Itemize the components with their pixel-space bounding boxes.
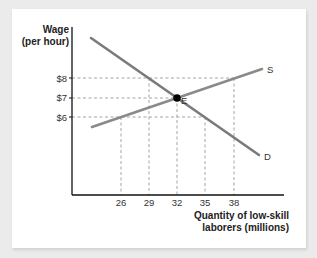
x-tick-35: 35 (200, 197, 211, 208)
x-axis-title-line1: Quantity of low-skill (194, 210, 289, 221)
supply-label: S (267, 64, 273, 75)
axes (72, 27, 284, 195)
x-tick-26: 26 (116, 197, 127, 208)
equilibrium-point (173, 94, 181, 102)
x-tick-32: 32 (172, 197, 183, 208)
equilibrium-label: E (181, 95, 187, 106)
x-tick-38: 38 (229, 197, 240, 208)
y-tick-8: $8 (56, 73, 67, 84)
y-tick-7: $7 (56, 92, 67, 103)
dashed-reference-lines (72, 78, 234, 195)
y-tick-6: $6 (56, 112, 67, 123)
demand-label: D (264, 151, 271, 162)
y-axis-title-line2: (per hour) (22, 36, 69, 47)
x-tick-29: 29 (144, 197, 155, 208)
x-axis-title-line2: laborers (millions) (202, 222, 289, 233)
wage-supply-demand-chart: E S D Wage (per hour) $8 $7 $6 26 29 32 … (0, 0, 317, 258)
y-axis-title-line1: Wage (43, 24, 70, 35)
